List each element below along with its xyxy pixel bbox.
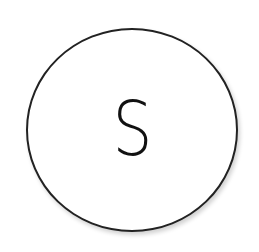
diagram-canvas: S bbox=[0, 0, 259, 252]
node-label: S bbox=[112, 92, 152, 166]
state-node-s: S bbox=[26, 28, 238, 232]
